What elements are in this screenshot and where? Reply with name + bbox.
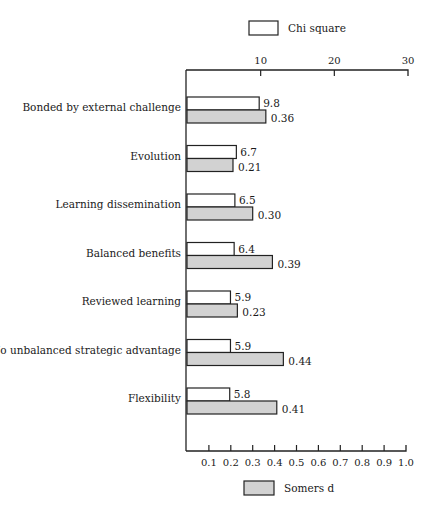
- value-label-chi-square: 6.4: [238, 243, 255, 255]
- category-label: Balanced benefits: [86, 247, 181, 259]
- bottom-axis-ticks: 0.10.20.30.40.50.60.70.80.91.0: [201, 445, 414, 468]
- bar-chi-square: [187, 97, 259, 110]
- top-tick-label: 30: [402, 55, 415, 66]
- legend-swatch-chi-square: [249, 21, 278, 35]
- bar-somers-d: [187, 401, 277, 414]
- bar-chi-square: [187, 340, 230, 353]
- value-label-somers-d: 0.36: [271, 112, 295, 124]
- value-label-chi-square: 6.5: [239, 194, 256, 206]
- value-label-chi-square: 5.9: [234, 291, 251, 303]
- bottom-tick-label: 0.5: [289, 457, 305, 468]
- legend-somers-d: Somers d: [244, 481, 334, 495]
- dual-axis-bar-chart: Chi square Somers d 102030 0.10.20.30.40…: [0, 0, 434, 516]
- category-group: 5.90.44: [187, 340, 312, 367]
- bottom-tick-label: 0.6: [310, 457, 326, 468]
- bar-chi-square: [187, 146, 236, 159]
- category-group: 9.80.36: [187, 97, 295, 124]
- value-label-somers-d: 0.21: [238, 161, 261, 173]
- bottom-tick-label: 0.8: [354, 457, 370, 468]
- bar-chi-square: [187, 194, 235, 207]
- category-label: Learning dissemination: [56, 198, 182, 210]
- bar-somers-d: [187, 256, 272, 269]
- legend-swatch-somers-d: [244, 481, 274, 495]
- bar-somers-d: [187, 159, 233, 172]
- category-label: Evolution: [130, 150, 181, 162]
- value-label-chi-square: 9.8: [263, 97, 280, 109]
- top-axis-line: [186, 70, 408, 76]
- category-group: 6.70.21: [187, 146, 261, 173]
- category-group: 6.40.39: [187, 243, 301, 270]
- value-label-somers-d: 0.41: [282, 403, 305, 415]
- category-group: 6.50.30: [187, 194, 281, 221]
- bar-somers-d: [187, 353, 283, 366]
- bar-somers-d: [187, 207, 253, 220]
- category-label: Bonded by external challenge: [22, 101, 181, 113]
- bar-somers-d: [187, 304, 237, 317]
- value-label-chi-square: 6.7: [240, 146, 257, 158]
- value-label-somers-d: 0.30: [258, 209, 281, 221]
- legend-label-somers-d: Somers d: [284, 482, 334, 494]
- bar-somers-d: [187, 110, 266, 123]
- bar-chi-square: [187, 291, 230, 304]
- category-group: 5.80.41: [187, 388, 305, 415]
- category-label: Reviewed learning: [82, 295, 182, 307]
- bottom-tick-label: 0.2: [223, 457, 239, 468]
- bottom-tick-label: 0.3: [245, 457, 261, 468]
- value-label-somers-d: 0.44: [288, 355, 312, 367]
- category-label: Flexibility: [128, 392, 181, 404]
- legend-label-chi-square: Chi square: [288, 22, 346, 34]
- bottom-tick-label: 0.4: [267, 457, 283, 468]
- value-label-chi-square: 5.9: [234, 340, 251, 352]
- top-axis-ticks: 102030: [254, 55, 414, 76]
- bottom-tick-label: 0.1: [201, 457, 217, 468]
- value-label-chi-square: 5.8: [234, 388, 251, 400]
- bottom-tick-label: 1.0: [398, 457, 414, 468]
- top-tick-label: 10: [254, 55, 267, 66]
- category-group: 5.90.23: [187, 291, 266, 318]
- top-tick-label: 20: [328, 55, 341, 66]
- bars-group: 9.80.366.70.216.50.306.40.395.90.235.90.…: [187, 97, 312, 415]
- value-label-somers-d: 0.23: [242, 306, 265, 318]
- bottom-tick-label: 0.7: [332, 457, 348, 468]
- legend-chi-square: Chi square: [249, 21, 346, 35]
- category-label: No unbalanced strategic advantage: [0, 344, 181, 356]
- bar-chi-square: [187, 243, 234, 256]
- bar-chi-square: [187, 388, 230, 401]
- category-labels: Bonded by external challengeEvolutionLea…: [0, 101, 181, 404]
- bottom-tick-label: 0.9: [376, 457, 392, 468]
- value-label-somers-d: 0.39: [277, 258, 300, 270]
